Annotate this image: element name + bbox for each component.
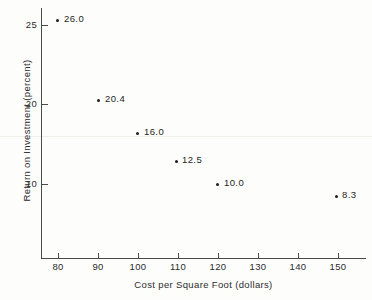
x-tick <box>298 253 299 259</box>
data-point[interactable] <box>136 132 139 135</box>
scatter-chart: 80 90 100 110 120 130 140 150 25 20 10 2… <box>0 0 372 300</box>
data-point-label: 20.4 <box>105 93 125 104</box>
x-axis-line <box>41 258 366 259</box>
data-point[interactable] <box>335 195 338 198</box>
x-tick-label: 150 <box>321 261 355 272</box>
x-axis-title: Cost per Square Foot (dollars) <box>41 279 366 290</box>
data-point[interactable] <box>56 19 59 22</box>
data-point-label: 8.3 <box>342 189 356 200</box>
x-tick-label: 80 <box>41 261 75 272</box>
data-point-label: 10.0 <box>224 177 244 188</box>
x-tick-label: 140 <box>281 261 315 272</box>
x-tick <box>98 253 99 259</box>
x-tick <box>258 253 259 259</box>
y-axis-title: Return on Investment (percent) <box>21 31 32 231</box>
scan-artifact-line <box>0 136 372 137</box>
y-tick <box>42 184 48 185</box>
data-point[interactable] <box>216 183 219 186</box>
x-tick-label: 130 <box>241 261 275 272</box>
y-tick <box>42 104 48 105</box>
x-tick <box>218 253 219 259</box>
y-tick <box>42 25 48 26</box>
x-tick <box>58 253 59 259</box>
x-tick-label: 110 <box>161 261 195 272</box>
data-point[interactable] <box>175 160 178 163</box>
x-tick <box>338 253 339 259</box>
data-point-label: 16.0 <box>144 126 164 137</box>
x-tick <box>178 253 179 259</box>
x-tick-label: 100 <box>121 261 155 272</box>
x-tick-label: 120 <box>201 261 235 272</box>
data-point-label: 12.5 <box>182 154 202 165</box>
x-tick <box>138 253 139 259</box>
x-tick-label: 90 <box>81 261 115 272</box>
y-axis-line <box>41 8 42 259</box>
data-point-label: 26.0 <box>64 13 84 24</box>
data-point[interactable] <box>97 99 100 102</box>
y-tick-label: 25 <box>17 19 37 30</box>
